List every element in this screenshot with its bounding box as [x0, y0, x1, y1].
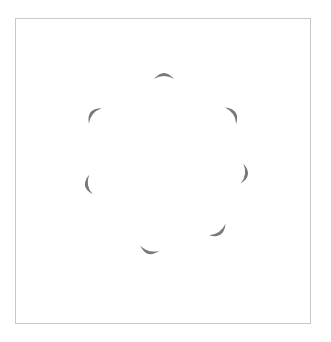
crescent-upper-left — [84, 104, 101, 123]
crescent-bottom — [139, 246, 160, 257]
crescent-top — [154, 73, 174, 79]
crescent-left — [83, 175, 92, 196]
crescent-ring — [0, 0, 331, 342]
crescent-upper-right — [225, 104, 241, 124]
crescent-right — [241, 164, 250, 185]
crescent-lower-right — [209, 224, 229, 240]
